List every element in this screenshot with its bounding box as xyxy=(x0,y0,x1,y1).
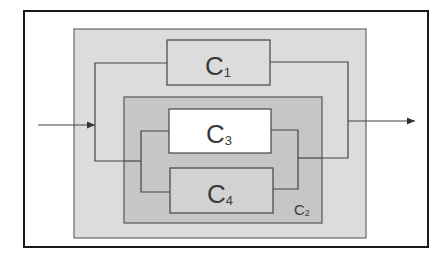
block-diagram: C1 C3 C4 C2 xyxy=(0,0,447,261)
